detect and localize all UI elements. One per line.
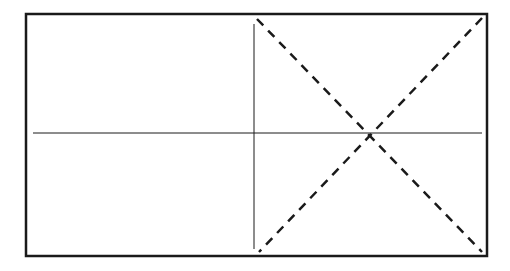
diagram-canvas — [0, 0, 510, 271]
background — [0, 0, 510, 271]
